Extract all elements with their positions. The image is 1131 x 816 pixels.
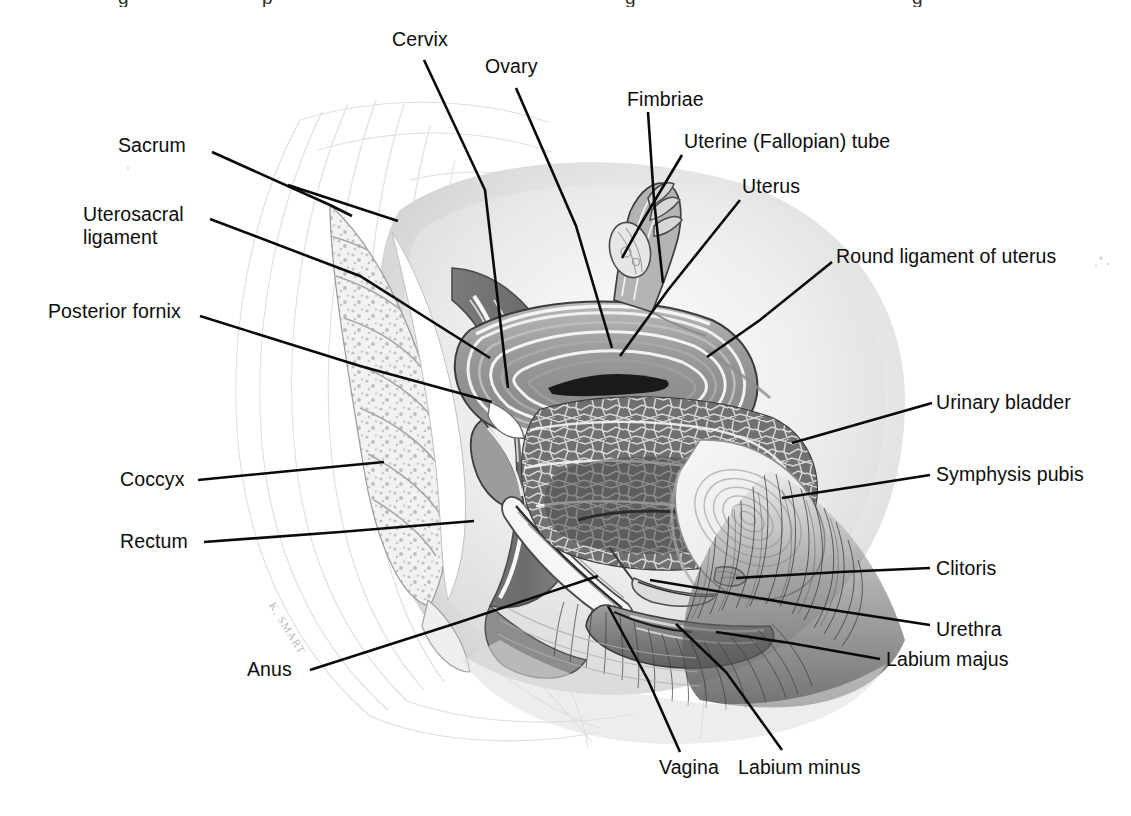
label-urethra: Urethra	[936, 618, 1002, 641]
label-labium-majus: Labium majus	[886, 648, 1009, 671]
label-uterine-fallopian-tube: Uterine (Fallopian) tube	[684, 130, 890, 153]
label-rectum: Rectum	[120, 530, 188, 553]
label-coccyx: Coccyx	[120, 468, 185, 491]
label-ovary: Ovary	[485, 55, 538, 78]
label-vagina: Vagina	[659, 756, 719, 779]
label-urinary-bladder: Urinary bladder	[936, 391, 1071, 414]
label-sacrum: Sacrum	[118, 134, 186, 157]
anatomical-figure: gpgg	[0, 0, 1131, 816]
label-uterosacral-ligament: Uterosacral ligament	[83, 203, 184, 249]
label-cervix: Cervix	[392, 28, 448, 51]
label-round-ligament-of-uterus: Round ligament of uterus	[836, 245, 1056, 268]
label-anus: Anus	[247, 658, 292, 681]
label-labium-minus: Labium minus	[738, 756, 861, 779]
label-fimbriae: Fimbriae	[627, 88, 704, 111]
label-clitoris: Clitoris	[936, 557, 996, 580]
label-uterus: Uterus	[742, 175, 800, 198]
label-symphysis-pubis: Symphysis pubis	[936, 463, 1084, 486]
label-posterior-fornix: Posterior fornix	[48, 300, 181, 323]
